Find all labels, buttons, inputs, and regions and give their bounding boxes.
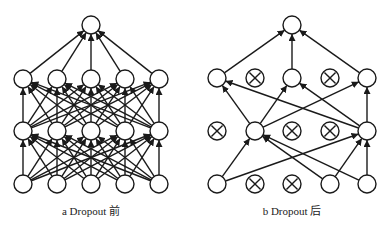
neuron bbox=[150, 175, 168, 193]
neuron bbox=[48, 122, 66, 140]
dropped-neuron bbox=[246, 69, 264, 87]
dropped-neuron bbox=[283, 175, 301, 193]
neuron bbox=[283, 69, 301, 87]
neuron bbox=[82, 16, 100, 34]
connection-arrow bbox=[262, 136, 322, 179]
connection-arrow bbox=[263, 82, 359, 127]
caption-before-dropout: a Dropout 前 bbox=[62, 202, 120, 218]
edges bbox=[23, 31, 159, 181]
neuron bbox=[321, 175, 339, 193]
neuron bbox=[116, 122, 134, 140]
connection-arrow bbox=[222, 85, 250, 123]
caption-after-dropout: b Dropout 后 bbox=[263, 202, 322, 218]
neuron bbox=[246, 122, 264, 140]
dropped-neuron bbox=[283, 122, 301, 140]
neuron bbox=[14, 70, 32, 88]
neuron bbox=[208, 175, 226, 193]
connection-arrow bbox=[225, 81, 358, 128]
neuron bbox=[283, 16, 301, 34]
neuron bbox=[82, 70, 100, 88]
dropout-diagram bbox=[0, 0, 391, 227]
neuron bbox=[358, 69, 376, 87]
neuron bbox=[116, 70, 134, 88]
panel-after-dropout bbox=[208, 16, 376, 193]
neuron bbox=[150, 70, 168, 88]
connection-arrow bbox=[299, 83, 359, 126]
edges bbox=[222, 30, 367, 181]
connection-arrow bbox=[299, 30, 359, 73]
connection-arrow bbox=[222, 138, 250, 176]
neuron bbox=[358, 175, 376, 193]
neuron bbox=[358, 122, 376, 140]
dropped-neuron bbox=[208, 122, 226, 140]
neuron bbox=[82, 122, 100, 140]
neuron bbox=[116, 175, 134, 193]
connection-arrow bbox=[263, 135, 359, 180]
neuron bbox=[150, 122, 168, 140]
neuron bbox=[48, 70, 66, 88]
panel-before-dropout bbox=[14, 16, 168, 193]
dropped-neuron bbox=[246, 175, 264, 193]
connection-arrow bbox=[30, 31, 84, 74]
neuron bbox=[48, 175, 66, 193]
connection-arrow bbox=[224, 30, 284, 73]
neuron bbox=[82, 175, 100, 193]
dropped-neuron bbox=[321, 122, 339, 140]
neuron bbox=[208, 69, 226, 87]
connection-arrow bbox=[98, 31, 152, 74]
neuron bbox=[14, 122, 32, 140]
dropped-neuron bbox=[321, 69, 339, 87]
neuron bbox=[14, 175, 32, 193]
